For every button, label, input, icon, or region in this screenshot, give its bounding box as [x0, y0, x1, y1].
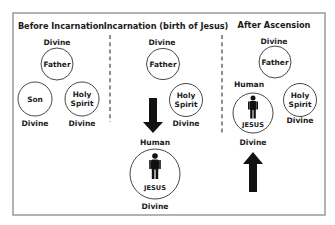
father-label: Father: [43, 60, 70, 69]
father-node: Father: [259, 46, 291, 78]
holy-label: Holy: [73, 90, 92, 99]
holy-spirit-node: Holy Spirit: [65, 82, 99, 116]
holy-label: Holy: [177, 91, 196, 100]
divine-label: Divine: [148, 38, 175, 47]
divine-label: Divine: [141, 202, 168, 211]
panel-heading: Before Incarnation: [18, 21, 104, 31]
divine-label: Divine: [239, 138, 266, 147]
human-label: Human: [234, 80, 264, 89]
father-label: Father: [261, 58, 288, 67]
trinity-incarnation-diagram: Before Incarnation Divine Father Son Div…: [0, 0, 335, 225]
panel-before-incarnation: Before Incarnation Divine Father Son Div…: [18, 21, 104, 128]
spirit-label: Spirit: [71, 99, 94, 108]
holy-label: Holy: [291, 91, 310, 100]
holy-spirit-node: Holy Spirit: [284, 84, 317, 117]
son-label: Son: [27, 95, 43, 104]
divine-label: Divine: [260, 37, 287, 46]
spirit-label: Spirit: [289, 100, 312, 109]
spirit-label: Spirit: [175, 100, 198, 109]
father-node: Father: [147, 49, 180, 80]
down-arrow-icon: [143, 98, 163, 133]
jesus-node: JESUS: [233, 93, 273, 133]
panel-heading: Incarnation (birth of Jesus): [104, 21, 229, 31]
jesus-node: JESUS: [130, 149, 180, 199]
divine-label: Divine: [286, 116, 313, 125]
divine-label: Divine: [68, 119, 95, 128]
panel-after-ascension: After Ascension Divine Father Holy Spiri…: [233, 20, 317, 192]
jesus-label: JESUS: [241, 121, 264, 129]
panel-heading: After Ascension: [238, 20, 311, 30]
holy-spirit-node: Holy Spirit: [170, 84, 203, 117]
panel-incarnation: Incarnation (birth of Jesus) Divine Fath…: [104, 21, 229, 211]
human-label: Human: [140, 138, 170, 147]
jesus-label: JESUS: [143, 184, 166, 192]
divine-label: Divine: [21, 119, 48, 128]
up-arrow-icon: [243, 152, 263, 192]
father-node: Father: [41, 48, 73, 80]
divine-label: Divine: [172, 119, 199, 128]
divine-label: Divine: [43, 38, 70, 47]
son-node: Son: [18, 82, 52, 116]
father-label: Father: [149, 60, 176, 69]
